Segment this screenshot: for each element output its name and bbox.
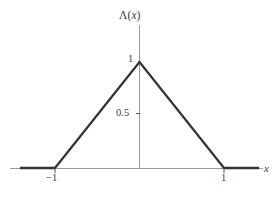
x-axis-title: x [264,163,269,174]
y-tick-label-one: 1 [128,54,133,65]
plot-canvas [0,0,280,198]
y-tick-label-half: 0.5 [116,108,129,119]
x-tick-label-one: 1 [221,173,226,184]
curve-falling-edge [140,62,225,168]
chart-figure: Λ(x) 1 0.5 −1 1 x [0,0,280,198]
y-axis-title: Λ(x) [119,10,141,22]
x-tick-label-negative-one: −1 [46,173,57,184]
y-axis-title-paren-close: ) [137,9,141,21]
